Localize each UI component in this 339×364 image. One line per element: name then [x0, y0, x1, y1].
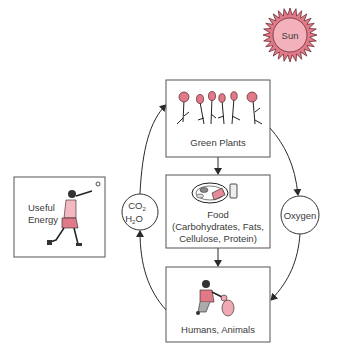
useful-energy-line-2: Energy — [28, 214, 58, 225]
co2-h2o-node: CO2 H2O — [122, 194, 158, 230]
oxygen-node: Oxygen — [281, 196, 319, 234]
oxygen-label: Oxygen — [284, 210, 317, 221]
sun-label: Sun — [282, 30, 299, 41]
humans-animals-node: Humans, Animals — [166, 267, 270, 342]
arrow-co2-to-plants — [140, 105, 166, 194]
food-title: Food — [207, 209, 229, 220]
arrow-humans-to-co2 — [140, 231, 166, 310]
diagram-canvas: Sun Green Plants — [0, 0, 339, 364]
green-plants-label: Green Plants — [190, 137, 246, 148]
arrow-plants-to-oxygen — [270, 128, 298, 195]
food-desc-line-1: (Carbohydrates, Fats, — [172, 221, 264, 232]
food-node: Food (Carbohydrates, Fats, Cellulose, Pr… — [166, 175, 270, 248]
useful-energy-node: Useful Energy — [14, 177, 105, 257]
useful-energy-line-1: Useful — [28, 202, 55, 213]
food-desc-line-2: Cellulose, Protein) — [179, 233, 257, 244]
green-plants-node: Green Plants — [166, 80, 270, 157]
arrow-oxygen-to-humans — [271, 234, 300, 300]
humans-animals-label: Humans, Animals — [181, 324, 255, 335]
